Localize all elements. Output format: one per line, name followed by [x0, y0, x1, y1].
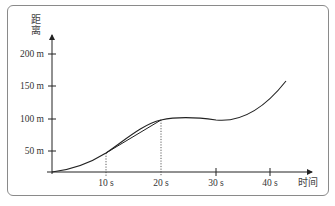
tick-label-200m: 200 m [20, 49, 45, 59]
distance-curve [52, 81, 286, 172]
tick-label-50m: 50 m [25, 146, 45, 156]
secant-chord [106, 120, 161, 153]
tick-label-20s: 20 s [153, 178, 169, 188]
tick-label-30s: 30 s [208, 178, 224, 188]
tick-label-10s: 10 s [98, 178, 114, 188]
tick-label-40s: 40 s [262, 178, 278, 188]
x-axis-title: 时间 [298, 176, 318, 188]
y-axis-title-line2: 离 [31, 24, 41, 36]
distance-time-chart: 50 m 100 m 150 m 200 m 10 s 20 s 30 s 40… [0, 0, 335, 206]
y-axis-title-line1: 距 [31, 14, 41, 25]
tick-label-150m: 150 m [20, 81, 45, 91]
tick-label-100m: 100 m [20, 114, 45, 124]
